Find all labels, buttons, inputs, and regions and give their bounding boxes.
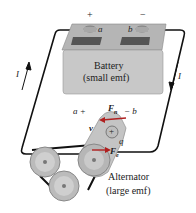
terminal-a-label: a <box>98 25 103 34</box>
pulley-left-icon <box>30 147 60 177</box>
current-label-right: I <box>178 72 181 81</box>
charge-sign: + <box>109 127 114 136</box>
current-arrow-left-icon <box>22 62 31 90</box>
battery-subtitle: (small emf) <box>83 73 129 83</box>
velocity-label: v <box>89 124 93 133</box>
charge-label: q <box>119 137 124 146</box>
pulley-bottom-icon <box>49 171 79 201</box>
force-e-label: Fe <box>110 147 119 158</box>
battery-minus-sign: − <box>140 10 146 20</box>
battery-title: Battery <box>94 61 123 71</box>
alternator-terminal-b: − b <box>124 107 137 116</box>
current-label-left: I <box>16 70 19 79</box>
alternator-subtitle: (large emf) <box>106 186 151 196</box>
current-arrow-right-icon <box>169 62 178 90</box>
alternator-terminal-a: a + <box>73 107 86 116</box>
battery-plus-sign: + <box>87 10 93 20</box>
alternator-title: Alternator <box>108 172 149 182</box>
force-n-label: Fn <box>108 104 117 115</box>
terminal-b-label: b <box>128 25 133 34</box>
